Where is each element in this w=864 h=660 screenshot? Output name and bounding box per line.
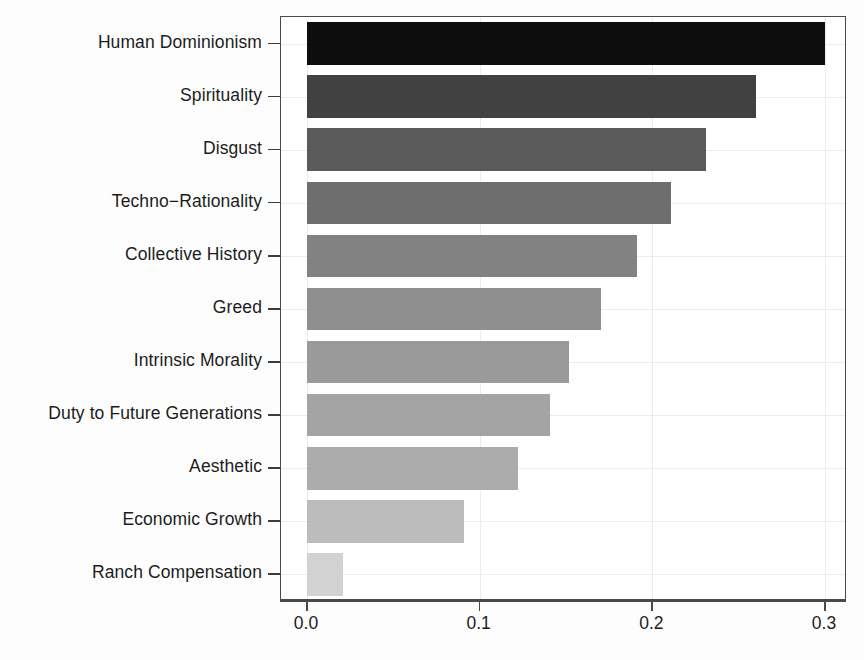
bar <box>307 553 343 595</box>
bar <box>307 75 756 117</box>
x-axis-tick <box>651 600 653 611</box>
y-axis-tick <box>268 573 280 575</box>
y-axis-tick <box>268 149 280 151</box>
bar <box>307 394 550 436</box>
y-axis-label: Aesthetic <box>0 458 262 476</box>
y-axis-category-labels: Human DominionismSpiritualityDisgustTech… <box>0 16 262 600</box>
x-axis-line <box>280 600 846 602</box>
y-axis-label: Disgust <box>0 140 262 158</box>
y-axis-label: Spirituality <box>0 87 262 105</box>
y-axis-label: Ranch Compensation <box>0 564 262 582</box>
y-axis-tick <box>268 43 280 45</box>
y-axis-label: Human Dominionism <box>0 34 262 52</box>
bar <box>307 22 825 64</box>
y-axis-label: Duty to Future Generations <box>0 405 262 423</box>
y-axis-label: Greed <box>0 299 262 317</box>
vertical-grid-line <box>825 17 826 599</box>
y-axis-label: Economic Growth <box>0 511 262 529</box>
bar <box>307 235 637 277</box>
y-axis-tick <box>268 414 280 416</box>
y-axis-tick <box>268 520 280 522</box>
bar <box>307 500 464 542</box>
y-axis-label: Intrinsic Morality <box>0 352 262 370</box>
y-axis-tick <box>268 361 280 363</box>
bar <box>307 341 569 383</box>
bar-chart: Human DominionismSpiritualityDisgustTech… <box>0 0 864 660</box>
x-axis-tick <box>306 600 308 611</box>
plot-area <box>280 16 846 600</box>
x-axis-tick <box>479 600 481 611</box>
bar <box>307 447 518 489</box>
x-axis-tick-label: 0.0 <box>294 615 318 633</box>
bar <box>307 128 706 170</box>
y-axis-label: Collective History <box>0 246 262 264</box>
x-axis-tick-label: 0.3 <box>812 615 836 633</box>
y-axis-label: Techno−Rationality <box>0 193 262 211</box>
x-axis-tick-label: 0.2 <box>639 615 663 633</box>
x-axis-tick-label: 0.1 <box>466 615 490 633</box>
bar <box>307 288 601 330</box>
x-axis-tick <box>824 600 826 611</box>
horizontal-grid-line <box>281 574 845 575</box>
y-axis-tick <box>268 308 280 310</box>
y-axis-tick <box>268 255 280 257</box>
bar <box>307 182 671 224</box>
y-axis-tick <box>268 467 280 469</box>
y-axis-tick <box>268 96 280 98</box>
y-axis-tick <box>268 202 280 204</box>
